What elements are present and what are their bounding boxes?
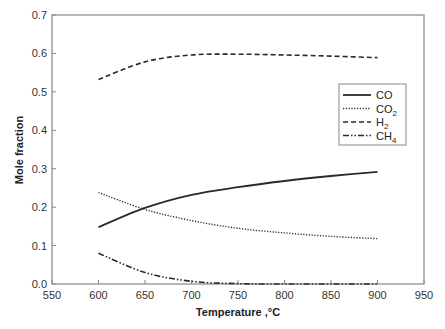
x-tick-label: 600 xyxy=(89,289,107,301)
series-lines xyxy=(99,54,378,284)
y-tick-label: 0.4 xyxy=(32,124,47,136)
y-tick-label: 0.2 xyxy=(32,201,47,213)
series-line-co xyxy=(99,172,378,227)
series-line-co2 xyxy=(99,193,378,239)
plot-area-border xyxy=(52,15,424,284)
x-axis-title: Temperature ,°C xyxy=(196,306,280,318)
legend-label-co: CO xyxy=(376,89,393,101)
y-tick-label: 0.6 xyxy=(32,47,47,59)
y-tick-label: 0.1 xyxy=(32,240,47,252)
x-tick-label: 700 xyxy=(182,289,200,301)
x-tick-label: 750 xyxy=(229,289,247,301)
series-line-h2 xyxy=(99,54,378,79)
y-tick-label: 0.7 xyxy=(32,9,47,21)
x-tick-label: 650 xyxy=(136,289,154,301)
x-tick-label: 800 xyxy=(275,289,293,301)
legend: COCO2H2CH4 xyxy=(339,84,406,145)
x-tick-label: 550 xyxy=(43,289,61,301)
x-tick-label: 900 xyxy=(368,289,386,301)
plot-frame xyxy=(52,15,424,284)
y-tick-label: 0.5 xyxy=(32,86,47,98)
y-axis-title: Mole fraction xyxy=(13,115,25,184)
x-tick-label: 850 xyxy=(322,289,340,301)
y-tick-label: 0.3 xyxy=(32,163,47,175)
line-chart: 0.00.10.20.30.40.50.60.7 550600650700750… xyxy=(0,0,445,329)
x-tick-label: 950 xyxy=(415,289,433,301)
series-line-ch4 xyxy=(99,253,378,284)
